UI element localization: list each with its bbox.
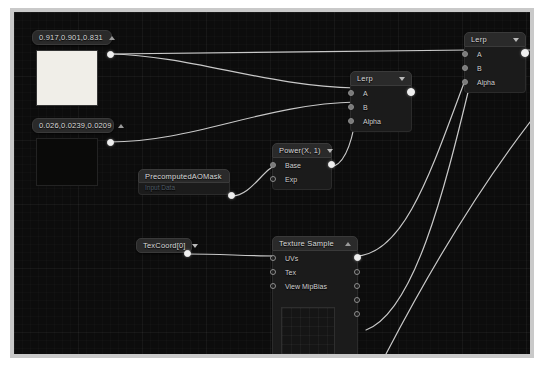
node-constant-dark-title: 0.026,0.0239,0.0209: [39, 121, 112, 130]
node-power-base-pin[interactable]: [270, 162, 276, 168]
node-texture-sample-body: UVs Tex View MipBias: [272, 251, 358, 354]
node-texture-sample-uvs-label: UVs: [285, 255, 298, 262]
node-texcoord-output-pin[interactable]: [184, 250, 191, 257]
node-texture-sample-output-g-pin[interactable]: [354, 283, 360, 289]
node-power-input-base[interactable]: Base: [273, 158, 331, 172]
node-constant-dark-header[interactable]: 0.026,0.0239,0.0209: [32, 118, 114, 133]
node-lerp-right-alpha-label: Alpha: [477, 79, 495, 86]
node-precomputed-ao-mask-subtitle: Input Data: [145, 184, 175, 191]
node-lerp-right[interactable]: Lerp A B Alpha: [464, 32, 526, 93]
down-caret-icon[interactable]: [192, 244, 198, 248]
node-constant-bright-preview: [36, 50, 98, 106]
node-lerp-right-title: Lerp: [471, 35, 507, 44]
node-power-base-label: Base: [285, 162, 301, 169]
node-precomputed-ao-mask-body: Input Data: [138, 183, 230, 195]
node-lerp-right-input-b[interactable]: B: [465, 61, 525, 75]
node-constant-dark-preview: [36, 138, 98, 186]
node-lerp-right-body: A B Alpha: [464, 47, 526, 93]
node-constant-bright-output-pin[interactable]: [107, 51, 114, 58]
node-lerp-middle-a-pin[interactable]: [348, 90, 354, 96]
up-caret-icon[interactable]: [345, 242, 351, 246]
node-lerp-right-input-alpha[interactable]: Alpha: [465, 75, 525, 89]
node-texture-sample-thumbnail: [281, 307, 335, 354]
node-texture-sample-output-a-pin[interactable]: [354, 311, 360, 317]
node-lerp-middle-b-label: B: [363, 104, 368, 111]
node-constant-dark-output-pin[interactable]: [107, 139, 114, 146]
node-texture-sample-output-r-pin[interactable]: [354, 269, 360, 275]
node-power-output-pin[interactable]: [328, 161, 335, 168]
node-constant-bright[interactable]: 0.917,0.901,0.831: [32, 30, 112, 45]
node-lerp-right-a-label: A: [477, 51, 482, 58]
node-lerp-right-a-pin[interactable]: [462, 51, 468, 57]
node-texture-sample-mipbias-label: View MipBias: [285, 283, 327, 290]
node-texture-sample-header[interactable]: Texture Sample: [272, 236, 358, 251]
node-lerp-right-alpha-pin[interactable]: [462, 79, 468, 85]
node-lerp-middle-a-label: A: [363, 90, 368, 97]
node-power-exp-label: Exp: [285, 176, 297, 183]
node-constant-dark[interactable]: 0.026,0.0239,0.0209: [32, 118, 114, 133]
node-power-body: Base Exp: [272, 158, 332, 190]
node-power-header[interactable]: Power(X, 1): [272, 143, 332, 158]
node-lerp-right-input-a[interactable]: A: [465, 47, 525, 61]
node-power-input-exp[interactable]: Exp: [273, 172, 331, 186]
node-texture-sample-output-rgb-pin[interactable]: [354, 254, 361, 261]
node-lerp-middle-input-a[interactable]: A: [351, 86, 411, 100]
node-precomputed-ao-mask-title: PrecomputedAOMask: [145, 172, 223, 181]
node-lerp-middle-alpha-label: Alpha: [363, 118, 381, 125]
node-lerp-middle-input-b[interactable]: B: [351, 100, 411, 114]
node-texture-sample-input-tex[interactable]: Tex: [273, 265, 357, 279]
node-constant-bright-header[interactable]: 0.917,0.901,0.831: [32, 30, 112, 45]
node-texture-sample-uvs-pin[interactable]: [270, 255, 276, 261]
material-graph-canvas[interactable]: 0.917,0.901,0.831 0.026,0.0239,0.0209 Pr…: [14, 12, 530, 354]
node-lerp-right-b-pin[interactable]: [462, 65, 468, 71]
up-caret-icon[interactable]: [118, 124, 124, 128]
node-lerp-middle-alpha-pin[interactable]: [348, 118, 354, 124]
down-caret-icon[interactable]: [327, 149, 333, 153]
node-texture-sample-mipbias-pin[interactable]: [270, 283, 276, 289]
node-precomputed-ao-mask[interactable]: PrecomputedAOMask Input Data: [138, 169, 230, 195]
node-texture-sample-input-uvs[interactable]: UVs: [273, 251, 357, 265]
node-lerp-middle-input-alpha[interactable]: Alpha: [351, 114, 411, 128]
node-lerp-right-output-pin[interactable]: [521, 49, 529, 57]
node-lerp-middle-b-pin[interactable]: [348, 104, 354, 110]
node-lerp-right-header[interactable]: Lerp: [464, 32, 526, 47]
node-lerp-middle[interactable]: Lerp A B Alpha: [350, 71, 412, 132]
node-texture-sample-title: Texture Sample: [279, 239, 339, 248]
up-caret-icon[interactable]: [109, 36, 115, 40]
node-constant-bright-title: 0.917,0.901,0.831: [39, 33, 103, 42]
node-lerp-middle-body: A B Alpha: [350, 86, 412, 132]
node-texture-sample-tex-pin[interactable]: [270, 269, 276, 275]
node-lerp-middle-title: Lerp: [357, 74, 393, 83]
node-power[interactable]: Power(X, 1) Base Exp: [272, 143, 332, 190]
node-texture-sample[interactable]: Texture Sample UVs Tex View MipBias: [272, 236, 358, 354]
node-precomputed-ao-mask-output-pin[interactable]: [228, 192, 235, 199]
node-lerp-middle-header[interactable]: Lerp: [350, 71, 412, 86]
node-power-exp-pin[interactable]: [270, 176, 276, 182]
node-texture-sample-output-row-b[interactable]: [273, 293, 357, 307]
node-power-title: Power(X, 1): [279, 146, 321, 155]
node-lerp-right-b-label: B: [477, 65, 482, 72]
screenshot-root: 0.917,0.901,0.831 0.026,0.0239,0.0209 Pr…: [0, 0, 558, 379]
node-texture-sample-input-mipbias[interactable]: View MipBias: [273, 279, 357, 293]
node-texcoord-title: TexCoord[0]: [143, 241, 186, 250]
node-lerp-middle-output-pin[interactable]: [407, 88, 415, 96]
down-caret-icon[interactable]: [399, 77, 405, 81]
node-texture-sample-output-b-pin[interactable]: [354, 297, 360, 303]
down-caret-icon[interactable]: [513, 38, 519, 42]
node-texture-sample-tex-label: Tex: [285, 269, 296, 276]
node-precomputed-ao-mask-header[interactable]: PrecomputedAOMask: [138, 169, 230, 183]
